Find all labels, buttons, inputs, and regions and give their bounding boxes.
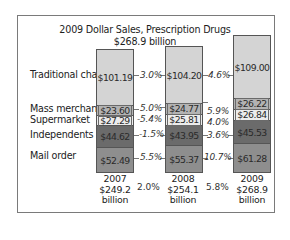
segment-supermarket: $27.29	[97, 115, 133, 125]
segment-independents: $43.95	[166, 125, 202, 145]
segment-mail-order: $52.49	[97, 147, 133, 172]
value-label: $55.37	[169, 154, 199, 165]
category-label-mail-order: Mail order	[30, 150, 76, 161]
segment-mass-merchant: $24.77	[166, 103, 202, 114]
segment-mail-order: $61.28	[234, 143, 270, 172]
growth-2008-2009-mail-order: 10.7%	[204, 152, 232, 162]
value-label: $104.20	[167, 70, 202, 81]
year-unit: billion	[161, 195, 205, 206]
year-unit: billion	[93, 195, 137, 206]
segment-traditional-chain: $101.19	[97, 50, 133, 105]
total-growth-2007-2008: 2.0%	[137, 182, 160, 192]
growth-2007-2008-supermarket: -5.4%	[137, 114, 162, 124]
value-label: $101.19	[98, 72, 133, 83]
growth-2007-2008-mail-order: 5.5%	[140, 152, 162, 162]
growth-2008-2009-independents: 3.6%	[207, 130, 229, 140]
growth-2007-2008-traditional-chain: 3.0%	[140, 70, 162, 80]
connector-tick	[134, 75, 139, 76]
year: 2007	[93, 174, 137, 185]
segment-supermarket: $25.81	[166, 114, 202, 125]
value-label: $27.29	[98, 115, 132, 127]
growth-2007-2008-independents: -1.5%	[139, 129, 164, 139]
segment-mass-merchant: $23.60	[97, 105, 133, 115]
value-label: $52.49	[100, 155, 130, 166]
category-label-traditional-chain: Traditional chain	[30, 69, 106, 80]
segment-mail-order: $55.37	[166, 145, 202, 172]
value-label: $109.00	[235, 62, 270, 73]
year: 2009	[230, 174, 274, 185]
segment-mass-merchant: $26.22	[234, 98, 270, 109]
connector-tick	[203, 102, 208, 103]
total-growth-2008-2009: 5.8%	[206, 182, 229, 192]
value-label: $61.28	[237, 153, 267, 164]
growth-2008-2009-traditional-chain: 4.6%	[208, 70, 230, 80]
connector-tick	[134, 109, 139, 110]
category-label-independents: Independents	[30, 129, 93, 140]
year-label-2007: 2007 $249.2 billion	[93, 174, 137, 206]
category-label-mass-merchant: Mass merchant	[30, 103, 101, 114]
year: 2008	[161, 174, 205, 185]
chart-title: 2009 Dollar Sales, Prescription Drugs	[0, 24, 290, 35]
value-label: $45.53	[237, 127, 267, 138]
growth-2008-2009-supermarket: 4.0%	[207, 117, 229, 127]
category-label-supermarket: Supermarket	[30, 114, 90, 125]
segment-traditional-chain: $109.00	[234, 36, 270, 98]
value-label: $26.84	[235, 109, 269, 121]
segment-traditional-chain: $104.20	[166, 47, 202, 103]
segment-supermarket: $26.84	[234, 109, 270, 120]
year-unit: billion	[230, 195, 274, 206]
growth-2008-2009-mass-merchant: 5.9%	[207, 106, 229, 116]
bar-2009: $109.00 $26.22 $26.84 $45.53 $61.28	[233, 35, 271, 173]
year-label-2008: 2008 $254.1 billion	[161, 174, 205, 206]
bar-2008: $104.20 $24.77 $25.81 $43.95 $55.37	[165, 46, 203, 173]
value-label: $43.95	[169, 130, 199, 141]
connector-tick	[134, 158, 139, 159]
year-label-2009: 2009 $268.9 billion	[230, 174, 274, 206]
growth-2007-2008-mass-merchant: 5.0%	[140, 103, 162, 113]
segment-independents: $45.53	[234, 120, 270, 143]
segment-independents: $44.62	[97, 125, 133, 147]
bar-2007: $101.19 $23.60 $27.29 $44.62 $52.49	[96, 49, 134, 173]
value-label: $25.81	[167, 114, 201, 126]
value-label: $44.62	[100, 131, 130, 142]
